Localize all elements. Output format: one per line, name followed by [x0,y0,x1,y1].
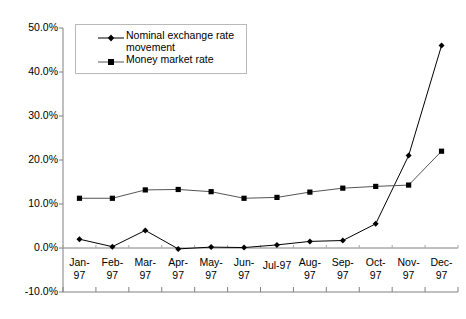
data-point-marker [241,196,246,201]
data-point-marker [274,242,280,248]
data-point-marker [76,236,82,242]
data-point-marker [208,244,214,250]
data-point-marker [307,190,312,195]
chart-legend: Nominal exchange rate movement Money mar… [75,24,247,74]
data-point-marker [439,43,445,49]
data-point-marker [439,149,444,154]
legend-item-nominal-exchange-rate: Nominal exchange rate movement [76,31,246,45]
data-point-marker [143,187,148,192]
data-point-marker [406,153,412,159]
data-point-marker [241,245,247,251]
data-point-marker [209,189,214,194]
data-point-marker [373,221,379,227]
legend-label-nominal-exchange-rate: Nominal exchange rate movement [126,30,234,53]
chart-container: 50.0%40.0%30.0%20.0%10.0%0.0%-10.0% Jan-… [0,0,466,319]
data-point-marker [340,238,346,244]
legend-label-money-market-rate: Money market rate [126,54,214,66]
data-point-marker [406,182,411,187]
data-point-marker [274,195,279,200]
legend-diamond-marker-icon [98,31,124,45]
data-point-marker [175,246,181,252]
legend-item-money-market-rate: Money market rate [76,55,246,69]
data-point-marker [142,227,148,233]
series-money-market-rate [77,149,444,201]
data-point-marker [176,187,181,192]
data-point-marker [109,244,115,250]
data-point-marker [340,186,345,191]
data-point-marker [77,196,82,201]
data-point-marker [307,238,313,244]
data-point-marker [110,196,115,201]
legend-square-marker-icon [98,55,124,69]
series-line [79,46,441,249]
data-point-marker [373,184,378,189]
series-line [79,151,441,198]
